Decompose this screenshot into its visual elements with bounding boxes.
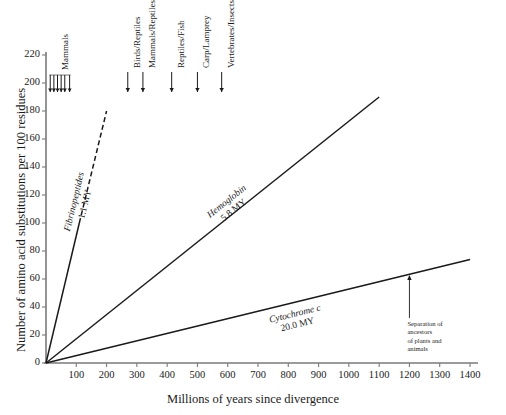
y-tick-label-220: 220 (6, 48, 40, 59)
divergence-arrowhead-mammals-1 (52, 89, 56, 93)
x-axis-title: Millions of years since divergence (0, 392, 506, 407)
annotation-line-0: Separation of (407, 320, 471, 328)
divergence-arrowhead-mammals-3 (59, 89, 63, 93)
series-line-1 (46, 97, 379, 363)
divergence-label-4: Carp/Lamprey (201, 16, 211, 68)
divergence-label-1: Birds/Reptiles (132, 17, 142, 69)
divergence-arrowhead-mammals-4 (63, 89, 67, 93)
divergence-label-0: Mammals (60, 34, 70, 70)
y-tick-label-0: 0 (6, 356, 40, 367)
x-tick-label-1400: 1400 (448, 369, 492, 380)
y-axis-title: Number of amino acid substitutions per 1… (14, 88, 29, 352)
divergence-label-2: Mammals/Reptiles (147, 0, 157, 68)
chart-figure: 0204060801001201401601802002201002003004… (0, 0, 506, 415)
divergence-label-3: Reptiles/Fish (176, 20, 186, 68)
divergence-arrowhead-5 (219, 88, 223, 92)
series-line-0 (46, 223, 79, 363)
annotation-line-2: of plants and (407, 337, 471, 345)
divergence-label-5: Vertebrates/Insects (226, 0, 236, 68)
series-line-2 (46, 259, 470, 363)
divergence-arrowhead-2 (141, 88, 145, 92)
divergence-arrowhead-4 (195, 88, 199, 92)
annotation-arrowhead-0 (407, 275, 411, 280)
divergence-arrowhead-mammals-0 (48, 89, 52, 93)
divergence-arrowhead-1 (126, 88, 130, 92)
divergence-arrowhead-3 (169, 88, 173, 92)
annotation-text-0: Separation ofancestorsof plants andanima… (407, 320, 471, 354)
annotation-line-1: ancestors (407, 328, 471, 336)
y-tick-label-200: 200 (6, 76, 40, 87)
annotation-line-3: animals (407, 345, 471, 353)
divergence-arrowhead-mammals-2 (56, 89, 60, 93)
divergence-arrowhead-mammals-5 (68, 89, 72, 93)
